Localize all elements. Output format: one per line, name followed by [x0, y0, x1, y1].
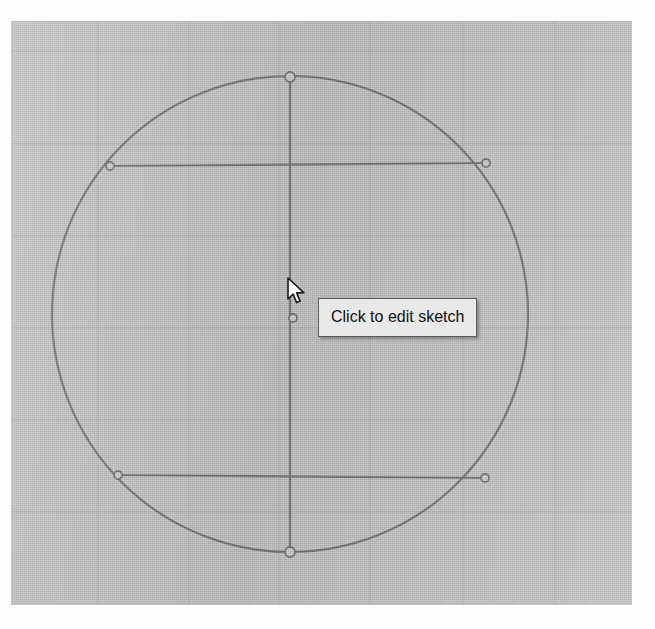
point-lower-left[interactable]: [114, 471, 122, 479]
point-bottom[interactable]: [285, 547, 295, 557]
application-window: Click to edit sketch: [0, 0, 655, 629]
edit-sketch-tooltip: Click to edit sketch: [318, 298, 477, 337]
point-upper-left[interactable]: [106, 162, 114, 170]
point-top[interactable]: [285, 72, 295, 82]
upper-horizontal-chord[interactable]: [110, 163, 486, 166]
point-upper-right[interactable]: [482, 159, 490, 167]
point-lower-right[interactable]: [481, 474, 489, 482]
point-center[interactable]: [289, 314, 297, 322]
lower-horizontal-chord[interactable]: [118, 475, 485, 478]
